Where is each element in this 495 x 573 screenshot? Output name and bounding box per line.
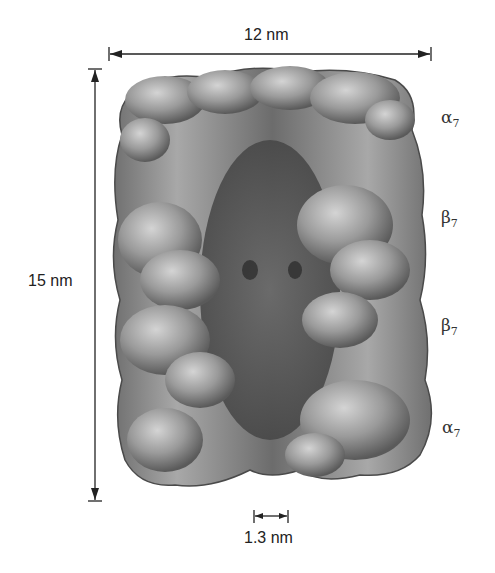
- pore-dimension-arrow: [254, 510, 288, 523]
- ring-symbol: β: [441, 207, 451, 227]
- ring-label-alpha-top: α7: [441, 107, 459, 130]
- protein-surface: [113, 66, 431, 486]
- ring-subscript: 7: [452, 117, 459, 130]
- ring-symbol: β: [441, 315, 451, 335]
- ring-symbol: α: [441, 107, 452, 127]
- ring-symbol: α: [442, 417, 453, 437]
- proteasome-diagram: [0, 0, 495, 573]
- pore-label: 1.3 nm: [244, 529, 293, 547]
- width-dimension-arrow: [109, 47, 431, 61]
- ring-label-alpha-bottom: α7: [442, 417, 460, 440]
- ring-subscript: 7: [451, 217, 458, 230]
- ring-label-beta-lower: β7: [441, 315, 458, 338]
- ring-subscript: 7: [451, 325, 458, 338]
- width-label: 12 nm: [244, 26, 288, 44]
- ring-label-beta-upper: β7: [441, 207, 458, 230]
- height-dimension-arrow: [88, 69, 102, 501]
- height-label: 15 nm: [28, 272, 72, 290]
- ring-subscript: 7: [453, 427, 460, 440]
